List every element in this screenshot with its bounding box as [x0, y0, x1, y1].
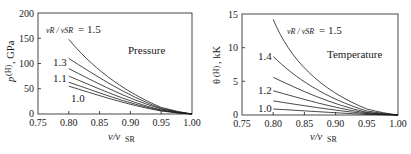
- svg-text:1.00: 1.00: [183, 117, 201, 128]
- y-tick-labels: 200 150 100 50 0: [19, 8, 34, 119]
- svg-text:10: 10: [228, 42, 238, 53]
- svg-text:0.90: 0.90: [327, 118, 345, 129]
- svg-text:100: 100: [19, 58, 34, 69]
- svg-text:Pressure: Pressure: [128, 44, 165, 56]
- svg-text:1.4: 1.4: [258, 50, 272, 62]
- temperature-chart: 15 10 5 0 0.75 0.80 0.85 0.90 0.95 1.00 …: [211, 9, 407, 144]
- svg-text:50: 50: [24, 83, 34, 94]
- pressure-chart: 200 150 100 50 0 0.75 0.80 0.85 0.90 0.9…: [4, 8, 201, 144]
- svg-text:5: 5: [233, 76, 238, 87]
- svg-text:p: p: [5, 77, 16, 83]
- figure: 200 150 100 50 0 0.75 0.80 0.85 0.90 0.9…: [0, 0, 411, 154]
- curve-1-2: [273, 91, 398, 115]
- svg-text:= 1.5: = 1.5: [319, 24, 342, 36]
- svg-text:vR / vSR: vR / vSR: [46, 26, 73, 35]
- svg-text:v/v: v/v: [310, 131, 323, 142]
- svg-text:1.00: 1.00: [389, 118, 407, 129]
- svg-text:0.80: 0.80: [60, 117, 78, 128]
- svg-text:1.3: 1.3: [53, 56, 67, 68]
- y-axis-label: θ (H) , kK: [211, 46, 222, 85]
- svg-text:0.85: 0.85: [91, 117, 109, 128]
- svg-text:SR: SR: [125, 135, 135, 144]
- svg-text:vR / vSR: vR / vSR: [287, 27, 314, 36]
- svg-text:0.75: 0.75: [233, 118, 251, 129]
- svg-text:, GPa: , GPa: [5, 40, 16, 64]
- svg-text:0.95: 0.95: [152, 117, 170, 128]
- svg-text:0.85: 0.85: [296, 118, 314, 129]
- curve-1-4: [69, 59, 192, 115]
- svg-text:1.1: 1.1: [53, 72, 67, 84]
- curve-1-0: [69, 86, 192, 114]
- y-axis-ticks: [242, 48, 245, 82]
- x-tick-labels: 0.75 0.80 0.85 0.90 0.95 1.00: [29, 117, 201, 128]
- svg-text:0.75: 0.75: [29, 117, 47, 128]
- x-axis-ticks: [69, 111, 161, 114]
- y-axis-label: p (H) , GPa: [4, 40, 16, 83]
- svg-text:v/v: v/v: [108, 131, 121, 142]
- svg-text:θ: θ: [211, 79, 222, 84]
- svg-text:15: 15: [228, 9, 238, 20]
- svg-text:0.80: 0.80: [264, 118, 282, 129]
- svg-text:, kK: , kK: [211, 46, 222, 65]
- svg-text:200: 200: [19, 8, 34, 19]
- x-axis-label: v/v SR: [310, 131, 337, 144]
- svg-text:Temperature: Temperature: [327, 48, 383, 60]
- curve-1-3: [69, 69, 192, 114]
- svg-text:0.90: 0.90: [122, 117, 140, 128]
- svg-text:1.2: 1.2: [258, 84, 272, 96]
- svg-text:SR: SR: [327, 135, 337, 144]
- svg-text:(H): (H): [212, 66, 221, 77]
- temperature-annotations: vR / vSR = 1.5 1.4 1.2 1.0 Temperature: [258, 24, 383, 114]
- y-tick-labels: 15 10 5 0: [228, 9, 238, 120]
- x-axis-label: v/v SR: [108, 131, 135, 144]
- svg-text:1.0: 1.0: [71, 92, 85, 104]
- svg-text:= 1.5: = 1.5: [78, 23, 101, 35]
- svg-text:1.0: 1.0: [258, 102, 272, 114]
- x-tick-labels: 0.75 0.80 0.85 0.90 0.95 1.00: [233, 118, 407, 129]
- svg-text:(H): (H): [4, 65, 13, 76]
- y-axis-ticks: [38, 38, 41, 89]
- svg-text:0.95: 0.95: [358, 118, 376, 129]
- svg-text:150: 150: [19, 33, 34, 44]
